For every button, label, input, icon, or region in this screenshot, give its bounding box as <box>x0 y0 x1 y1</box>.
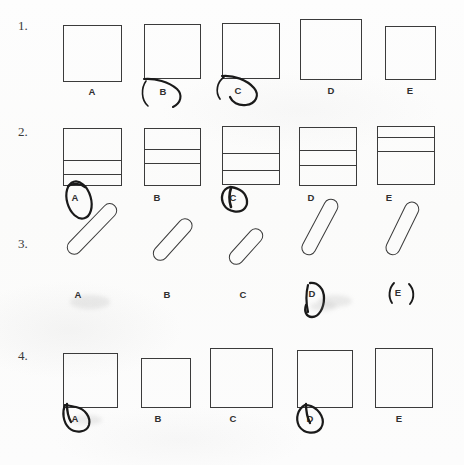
option-label-2-B[interactable]: B <box>150 192 164 203</box>
option-label-3-D[interactable]: D <box>305 288 319 299</box>
figure-4-A[interactable] <box>63 353 118 408</box>
divider-line <box>64 174 121 175</box>
option-label-3-B[interactable]: B <box>160 289 174 300</box>
divider-line <box>64 160 121 161</box>
option-label-2-A[interactable]: A <box>68 192 82 203</box>
figure-4-E[interactable] <box>375 348 433 408</box>
divider-line <box>145 163 200 164</box>
figure-3-D[interactable] <box>299 196 341 258</box>
option-label-4-D[interactable]: D <box>303 413 317 424</box>
question-number-1: 1. <box>18 18 28 34</box>
divider-line <box>378 137 434 138</box>
divider-line <box>145 149 200 150</box>
divider-line <box>223 153 279 154</box>
figure-2-E[interactable] <box>377 126 435 185</box>
option-label-1-B[interactable]: B <box>156 86 170 97</box>
option-label-4-A[interactable]: A <box>68 413 82 424</box>
divider-line <box>300 165 356 166</box>
figure-3-A[interactable] <box>64 200 121 258</box>
option-label-3-C[interactable]: C <box>236 289 250 300</box>
option-label-3-A[interactable]: A <box>71 289 85 300</box>
option-label-2-C[interactable]: C <box>226 192 240 203</box>
figure-4-C[interactable] <box>210 348 273 408</box>
figure-1-B[interactable] <box>144 24 201 79</box>
figure-4-D[interactable] <box>297 350 353 408</box>
option-label-4-E[interactable]: E <box>392 413 406 424</box>
option-label-1-D[interactable]: D <box>324 85 338 96</box>
worksheet-page: 1. A B C D E 2. A B <box>0 0 464 465</box>
option-label-2-D[interactable]: D <box>304 192 318 203</box>
figure-3-E[interactable] <box>383 199 422 258</box>
figure-3-B[interactable] <box>150 215 196 264</box>
figure-2-A[interactable] <box>63 128 122 186</box>
figure-2-D[interactable] <box>299 127 357 186</box>
pencil-smudge <box>310 302 336 311</box>
option-label-1-A[interactable]: A <box>85 86 99 97</box>
figure-1-A[interactable] <box>63 25 122 82</box>
question-number-2: 2. <box>18 124 28 140</box>
question-number-3: 3. <box>18 236 28 252</box>
option-label-3-E[interactable]: E <box>391 287 405 298</box>
figure-1-C[interactable] <box>222 23 280 79</box>
divider-line <box>300 150 356 151</box>
option-label-4-B[interactable]: B <box>151 413 165 424</box>
figure-3-C[interactable] <box>226 225 267 268</box>
option-label-1-E[interactable]: E <box>403 85 417 96</box>
option-label-2-E[interactable]: E <box>382 192 396 203</box>
question-number-4: 4. <box>18 348 28 364</box>
option-label-4-C[interactable]: C <box>226 413 240 424</box>
figure-2-B[interactable] <box>144 128 201 186</box>
figure-2-C[interactable] <box>222 126 280 185</box>
divider-line <box>223 170 279 171</box>
figure-1-E[interactable] <box>385 26 436 80</box>
figure-1-D[interactable] <box>300 19 362 80</box>
figure-4-B[interactable] <box>141 358 191 408</box>
divider-line <box>378 151 434 152</box>
option-label-1-C[interactable]: C <box>231 85 245 96</box>
